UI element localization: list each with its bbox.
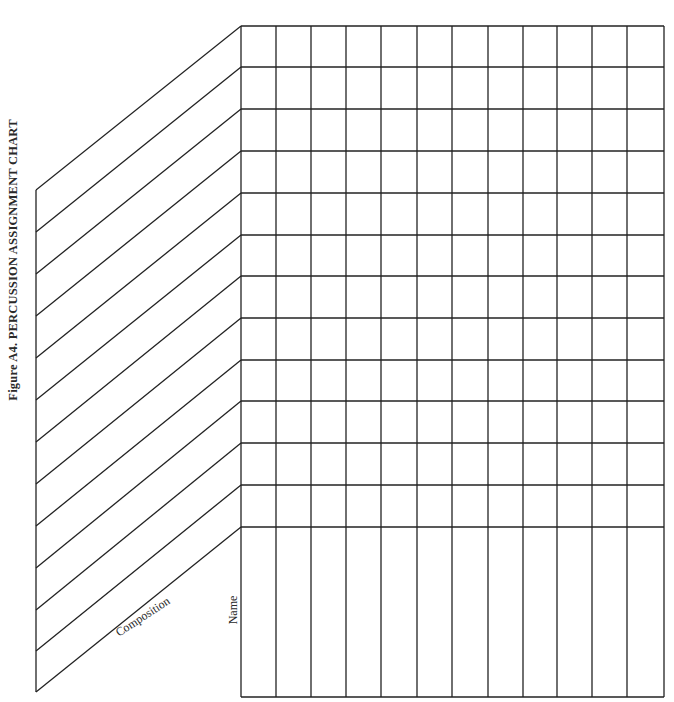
assignment-cell[interactable] — [557, 276, 592, 318]
assignment-cell[interactable] — [417, 193, 452, 235]
assignment-cell[interactable] — [452, 443, 488, 485]
name-cell[interactable] — [592, 527, 627, 697]
assignment-cell[interactable] — [417, 67, 452, 109]
assignment-cell[interactable] — [488, 485, 523, 527]
assignment-cell[interactable] — [346, 109, 381, 151]
assignment-cell[interactable] — [381, 109, 417, 151]
assignment-cell[interactable] — [452, 151, 488, 193]
assignment-cell[interactable] — [346, 485, 381, 527]
assignment-cell[interactable] — [452, 360, 488, 401]
assignment-cell[interactable] — [417, 276, 452, 318]
assignment-cell[interactable] — [311, 67, 346, 109]
assignment-cell[interactable] — [417, 360, 452, 401]
name-cell[interactable] — [452, 527, 488, 697]
assignment-cell[interactable] — [557, 67, 592, 109]
assignment-cell[interactable] — [523, 360, 557, 401]
assignment-cell[interactable] — [276, 193, 311, 235]
assignment-cell[interactable] — [452, 276, 488, 318]
assignment-cell[interactable] — [346, 360, 381, 401]
assignment-cell[interactable] — [557, 318, 592, 360]
assignment-cell[interactable] — [488, 26, 523, 67]
name-cell[interactable] — [276, 527, 311, 697]
assignment-cell[interactable] — [276, 318, 311, 360]
name-cell[interactable] — [381, 527, 417, 697]
assignment-cell[interactable] — [523, 193, 557, 235]
assignment-cell[interactable] — [311, 26, 346, 67]
assignment-cell[interactable] — [241, 485, 276, 527]
name-cell[interactable] — [488, 527, 523, 697]
assignment-cell[interactable] — [381, 235, 417, 276]
assignment-cell[interactable] — [311, 109, 346, 151]
assignment-cell[interactable] — [488, 151, 523, 193]
assignment-cell[interactable] — [627, 443, 664, 485]
assignment-cell[interactable] — [346, 401, 381, 443]
assignment-cell[interactable] — [592, 151, 627, 193]
assignment-cell[interactable] — [488, 318, 523, 360]
assignment-cell[interactable] — [241, 276, 276, 318]
assignment-cell[interactable] — [627, 151, 664, 193]
assignment-cell[interactable] — [592, 318, 627, 360]
assignment-cell[interactable] — [452, 67, 488, 109]
assignment-cell[interactable] — [381, 401, 417, 443]
assignment-cell[interactable] — [311, 443, 346, 485]
assignment-cell[interactable] — [417, 401, 452, 443]
assignment-cell[interactable] — [488, 443, 523, 485]
assignment-cell[interactable] — [627, 401, 664, 443]
assignment-cell[interactable] — [592, 67, 627, 109]
assignment-cell[interactable] — [452, 235, 488, 276]
assignment-cell[interactable] — [417, 109, 452, 151]
assignment-cell[interactable] — [557, 26, 592, 67]
assignment-cell[interactable] — [452, 401, 488, 443]
assignment-cell[interactable] — [592, 109, 627, 151]
assignment-cell[interactable] — [381, 26, 417, 67]
assignment-cell[interactable] — [627, 67, 664, 109]
name-cell[interactable] — [627, 527, 664, 697]
assignment-cell[interactable] — [311, 485, 346, 527]
assignment-cell[interactable] — [276, 109, 311, 151]
assignment-cell[interactable] — [557, 443, 592, 485]
assignment-cell[interactable] — [417, 318, 452, 360]
assignment-cell[interactable] — [311, 235, 346, 276]
name-cell[interactable] — [311, 527, 346, 697]
assignment-cell[interactable] — [452, 26, 488, 67]
assignment-cell[interactable] — [452, 485, 488, 527]
assignment-cell[interactable] — [346, 318, 381, 360]
assignment-cell[interactable] — [311, 318, 346, 360]
assignment-cell[interactable] — [346, 67, 381, 109]
assignment-cell[interactable] — [488, 276, 523, 318]
assignment-cell[interactable] — [311, 360, 346, 401]
assignment-cell[interactable] — [592, 276, 627, 318]
assignment-cell[interactable] — [627, 26, 664, 67]
assignment-cell[interactable] — [381, 276, 417, 318]
assignment-cell[interactable] — [241, 235, 276, 276]
assignment-cell[interactable] — [381, 193, 417, 235]
assignment-cell[interactable] — [523, 318, 557, 360]
assignment-cell[interactable] — [346, 193, 381, 235]
assignment-cell[interactable] — [346, 276, 381, 318]
assignment-cell[interactable] — [346, 235, 381, 276]
assignment-cell[interactable] — [241, 193, 276, 235]
assignment-cell[interactable] — [276, 485, 311, 527]
assignment-cell[interactable] — [417, 26, 452, 67]
assignment-cell[interactable] — [523, 26, 557, 67]
assignment-cell[interactable] — [381, 443, 417, 485]
assignment-cell[interactable] — [592, 193, 627, 235]
assignment-cell[interactable] — [523, 109, 557, 151]
assignment-cell[interactable] — [311, 276, 346, 318]
assignment-cell[interactable] — [381, 485, 417, 527]
assignment-cell[interactable] — [417, 151, 452, 193]
assignment-cell[interactable] — [627, 109, 664, 151]
assignment-cell[interactable] — [592, 401, 627, 443]
assignment-cell[interactable] — [241, 401, 276, 443]
name-cell[interactable] — [557, 527, 592, 697]
assignment-cell[interactable] — [627, 235, 664, 276]
assignment-cell[interactable] — [627, 360, 664, 401]
assignment-cell[interactable] — [523, 485, 557, 527]
assignment-cell[interactable] — [488, 401, 523, 443]
assignment-cell[interactable] — [488, 67, 523, 109]
assignment-cell[interactable] — [311, 193, 346, 235]
assignment-cell[interactable] — [627, 193, 664, 235]
assignment-cell[interactable] — [276, 360, 311, 401]
name-cell[interactable] — [346, 527, 381, 697]
assignment-cell[interactable] — [241, 109, 276, 151]
